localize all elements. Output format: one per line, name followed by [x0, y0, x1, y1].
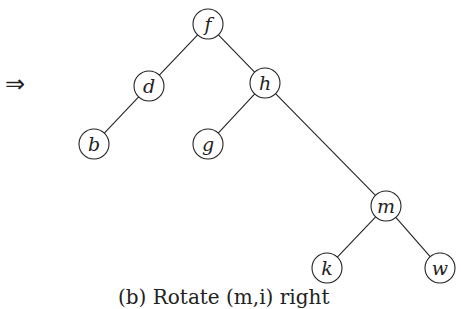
node-label: h [259, 72, 271, 94]
edge-m-w [396, 217, 430, 256]
figure-caption: (b) Rotate (m,i) right [118, 285, 329, 309]
node-k: k [312, 253, 342, 283]
node-f: f [193, 9, 223, 39]
edge-h-g [218, 94, 255, 133]
edge-f-h [218, 35, 254, 72]
node-m: m [371, 191, 401, 221]
node-h: h [250, 68, 280, 98]
node-w: w [425, 253, 455, 283]
edge-f-d [159, 35, 197, 75]
node-label: g [202, 133, 214, 155]
node-d: d [134, 71, 164, 101]
tree-nodes: fdhbgmkw [79, 9, 455, 283]
node-label: b [88, 133, 100, 155]
edge-h-m [276, 94, 376, 196]
node-b: b [79, 129, 109, 159]
edge-m-k [337, 217, 375, 257]
node-label: k [321, 257, 333, 279]
node-label: w [432, 257, 448, 279]
node-label: d [143, 75, 155, 97]
node-label: m [377, 195, 395, 217]
node-g: g [193, 129, 223, 159]
edge-d-b [104, 97, 138, 133]
